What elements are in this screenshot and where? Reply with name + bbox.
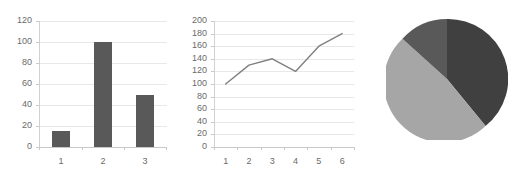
y-tick-label: 20	[4, 121, 32, 130]
pie-chart-svg	[386, 18, 508, 140]
y-tick-label: 120	[4, 16, 32, 25]
x-axis-line	[39, 147, 167, 148]
x-tick-label: 3	[260, 157, 284, 166]
gridline	[39, 21, 167, 22]
x-tick-label: 1	[46, 157, 76, 166]
x-tick-mark	[82, 147, 83, 150]
x-tick-label: 5	[307, 157, 331, 166]
pie-chart	[370, 0, 524, 188]
y-tick-label: 60	[4, 79, 32, 88]
y-axis-line	[39, 21, 40, 147]
line-series-path	[226, 34, 343, 84]
x-tick-label: 3	[130, 157, 160, 166]
bar-chart: 0 20 40 60 80 100 120 1 2 3	[0, 0, 180, 188]
x-tick-label: 4	[284, 157, 308, 166]
y-tick-label: 80	[4, 58, 32, 67]
y-tick-label: 40	[4, 100, 32, 109]
bar-category-3	[136, 95, 154, 148]
x-tick-label: 1	[214, 157, 238, 166]
x-tick-mark	[166, 147, 167, 150]
x-tick-mark	[39, 147, 40, 150]
chart-figure-row: 0 20 40 60 80 100 120 1 2 3	[0, 0, 524, 188]
y-tick-mark	[36, 63, 39, 64]
y-tick-mark	[36, 84, 39, 85]
y-tick-mark	[36, 126, 39, 127]
line-chart: 0 20 40 60 80 100 120 140 160 180 200 1 …	[180, 0, 370, 188]
y-tick-label: 0	[4, 142, 32, 151]
y-tick-mark	[36, 21, 39, 22]
y-tick-mark	[36, 42, 39, 43]
bar-category-2	[94, 42, 112, 147]
x-tick-label: 2	[237, 157, 261, 166]
x-tick-label: 6	[330, 157, 354, 166]
y-tick-mark	[36, 105, 39, 106]
x-tick-label: 2	[88, 157, 118, 166]
x-tick-mark	[124, 147, 125, 150]
bar-category-1	[52, 131, 70, 147]
y-tick-label: 100	[4, 37, 32, 46]
